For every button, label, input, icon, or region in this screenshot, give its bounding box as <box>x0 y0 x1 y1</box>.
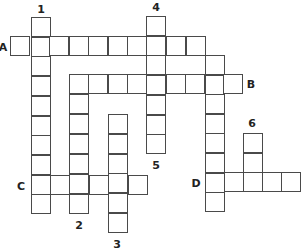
grid-cell-a-3[interactable] <box>49 36 69 56</box>
grid-cell-4-3[interactable] <box>146 55 166 75</box>
grid-cell-5-4[interactable] <box>205 114 225 134</box>
clue-number-1: 1 <box>37 4 45 15</box>
grid-cell-d-5[interactable] <box>281 172 301 192</box>
grid-cell-2-7[interactable] <box>69 194 89 214</box>
grid-cell-4-4[interactable] <box>146 75 166 95</box>
grid-cell-3-5[interactable] <box>108 193 128 213</box>
grid-cell-1-5[interactable] <box>31 96 51 116</box>
grid-cell-b-2[interactable] <box>88 74 108 94</box>
grid-cell-3-4[interactable] <box>108 173 128 193</box>
grid-cell-b-3[interactable] <box>108 74 128 94</box>
grid-cell-5-8[interactable] <box>205 192 225 212</box>
grid-cell-1-3[interactable] <box>31 56 51 76</box>
grid-cell-b-9[interactable] <box>223 74 243 94</box>
grid-cell-a-9[interactable] <box>166 36 186 56</box>
grid-cell-1-9[interactable] <box>31 175 51 195</box>
grid-cell-1-6[interactable] <box>31 116 51 136</box>
clue-number-5: 5 <box>152 160 160 171</box>
grid-cell-5-5[interactable] <box>205 133 225 153</box>
grid-cell-5-2[interactable] <box>205 75 225 95</box>
grid-cell-4-1[interactable] <box>146 16 166 36</box>
grid-cell-6-3[interactable] <box>243 172 263 192</box>
grid-cell-c-6[interactable] <box>128 175 148 195</box>
grid-cell-1-8[interactable] <box>31 155 51 175</box>
grid-cell-a-6[interactable] <box>108 36 128 56</box>
grid-cell-4-6[interactable] <box>146 115 166 135</box>
grid-cell-d-4[interactable] <box>262 172 282 192</box>
grid-cell-6-1[interactable] <box>243 133 263 153</box>
grid-cell-b-4[interactable] <box>127 74 147 94</box>
grid-cell-c-2[interactable] <box>50 175 70 195</box>
grid-cell-1-10[interactable] <box>31 194 51 214</box>
crossword-puzzle: 14AB65CD23 <box>0 0 304 252</box>
grid-cell-1-7[interactable] <box>31 135 51 155</box>
grid-cell-1-4[interactable] <box>31 76 51 96</box>
grid-cell-a-4[interactable] <box>69 36 89 56</box>
grid-cell-5-3[interactable] <box>205 94 225 114</box>
grid-cell-3-1[interactable] <box>108 114 128 134</box>
grid-cell-2-4[interactable] <box>69 134 89 154</box>
clue-number-6: 6 <box>248 118 256 129</box>
grid-cell-2-1[interactable] <box>69 74 89 94</box>
grid-cell-2-6[interactable] <box>69 174 89 194</box>
grid-cell-4-2[interactable] <box>146 36 166 56</box>
grid-cell-4-5[interactable] <box>146 95 166 115</box>
grid-cell-5-7[interactable] <box>205 173 225 193</box>
grid-cell-3-2[interactable] <box>108 134 128 154</box>
grid-cell-2-5[interactable] <box>69 154 89 174</box>
clue-number-4: 4 <box>152 2 160 13</box>
grid-cell-2-3[interactable] <box>69 114 89 134</box>
grid-cell-a-5[interactable] <box>88 36 108 56</box>
clue-number-2: 2 <box>75 220 83 231</box>
grid-cell-1-1[interactable] <box>31 17 51 37</box>
grid-cell-d-2[interactable] <box>224 172 244 192</box>
grid-cell-a-1[interactable] <box>10 36 30 56</box>
grid-cell-5-1[interactable] <box>205 55 225 75</box>
grid-cell-1-2[interactable] <box>31 37 51 57</box>
clue-number-a: A <box>0 42 7 53</box>
grid-cell-b-6[interactable] <box>166 74 186 94</box>
grid-cell-b-7[interactable] <box>185 74 205 94</box>
grid-cell-3-6[interactable] <box>108 213 128 233</box>
grid-cell-c-4[interactable] <box>89 175 109 195</box>
grid-cell-a-7[interactable] <box>127 36 147 56</box>
clue-number-c: C <box>17 181 25 192</box>
clue-number-b: B <box>247 79 255 90</box>
grid-cell-6-2[interactable] <box>243 153 263 173</box>
grid-cell-a-10[interactable] <box>186 36 206 56</box>
grid-cell-3-3[interactable] <box>108 154 128 174</box>
grid-cell-4-7[interactable] <box>146 134 166 154</box>
grid-cell-2-2[interactable] <box>69 94 89 114</box>
clue-number-d: D <box>191 178 200 189</box>
clue-number-3: 3 <box>113 239 121 250</box>
grid-cell-5-6[interactable] <box>205 153 225 173</box>
